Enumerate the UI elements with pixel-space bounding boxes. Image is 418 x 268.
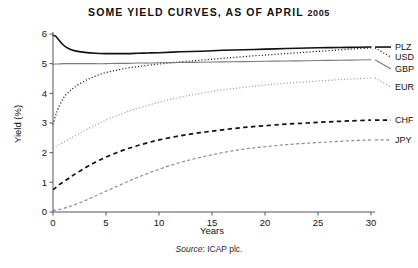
series-line-chf xyxy=(53,120,371,190)
legend-swatch-gbp xyxy=(375,60,391,69)
x-tick-label: 0 xyxy=(50,217,55,228)
legend-label-chf: CHF xyxy=(395,115,414,125)
series-line-usd xyxy=(53,48,371,125)
x-tick-label: 10 xyxy=(154,217,165,228)
chart-legend: PLZUSDGBPEURCHFJPY xyxy=(375,42,415,145)
x-tick-label: 30 xyxy=(366,217,377,228)
legend-label-gbp: GBP xyxy=(395,64,414,74)
legend-label-eur: EUR xyxy=(395,82,415,92)
yield-curve-figure: SOME YIELD CURVES, AS OF APRIL 2005 0123… xyxy=(0,0,418,268)
y-tick-label: 3 xyxy=(42,117,47,128)
series-line-jpy xyxy=(53,140,371,211)
x-axis-title: Years xyxy=(200,225,224,236)
series-line-gbp xyxy=(53,60,371,64)
chart-title-year: 2005 xyxy=(308,8,330,18)
y-tick-label: 1 xyxy=(42,177,47,188)
series-line-plz xyxy=(53,35,371,53)
source-note: Source: ICAP plc. xyxy=(0,244,418,254)
legend-label-usd: USD xyxy=(395,52,415,62)
y-tick-label: 5 xyxy=(42,58,47,69)
x-tick-label: 25 xyxy=(313,217,324,228)
legend-label-jpy: JPY xyxy=(395,135,412,145)
series-line-eur xyxy=(53,78,371,148)
source-value: ICAP plc. xyxy=(207,244,242,254)
chart-plot-area: 0123456051015202530 PLZUSDGBPEURCHFJPY Y… xyxy=(0,0,418,240)
y-tick-label: 2 xyxy=(42,147,47,158)
legend-swatch-usd xyxy=(375,48,391,57)
source-label: Source xyxy=(176,244,203,254)
legend-label-plz: PLZ xyxy=(395,42,412,52)
x-tick-label: 20 xyxy=(260,217,271,228)
y-tick-label: 4 xyxy=(42,88,47,99)
y-tick-label: 0 xyxy=(42,206,47,217)
series-layer xyxy=(53,35,371,210)
y-tick-label: 6 xyxy=(42,28,47,39)
y-axis-title: Yield (%) xyxy=(12,105,23,143)
chart-title: SOME YIELD CURVES, AS OF APRIL 2005 xyxy=(0,6,418,18)
x-tick-label: 5 xyxy=(103,217,108,228)
chart-title-main: SOME YIELD CURVES, AS OF APRIL xyxy=(88,6,307,18)
legend-swatch-eur xyxy=(375,78,391,87)
